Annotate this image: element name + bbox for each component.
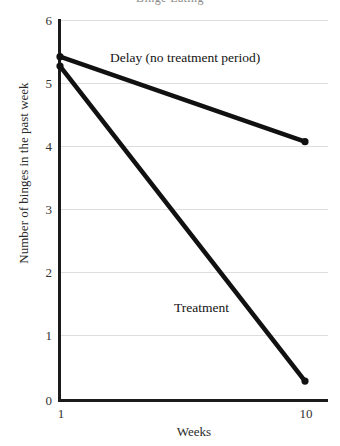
data-point-delay-week1 bbox=[56, 53, 63, 60]
data-point-treatment-week1 bbox=[56, 63, 63, 70]
series-line-delay bbox=[60, 57, 305, 142]
series-delay bbox=[56, 53, 308, 145]
data-series-layer bbox=[0, 0, 340, 446]
series-annotation-treatment: Treatment bbox=[174, 300, 229, 316]
data-point-treatment-week10 bbox=[301, 378, 308, 385]
chart-figure: Binge Eating 6 5 4 3 2 1 0 Number of bin… bbox=[0, 0, 340, 446]
data-point-delay-week10 bbox=[301, 138, 308, 145]
series-line-treatment bbox=[60, 66, 305, 381]
series-annotation-delay: Delay (no treatment period) bbox=[110, 50, 260, 66]
series-treatment bbox=[56, 63, 308, 385]
